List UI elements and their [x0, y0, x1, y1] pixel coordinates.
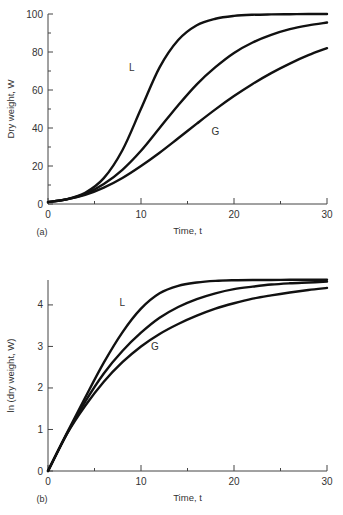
- y-tick-label: 80: [32, 47, 44, 58]
- y-axis-label: Dry weight, W: [5, 79, 16, 138]
- x-tick-label: 10: [135, 476, 147, 487]
- x-tick-label: 0: [45, 209, 51, 220]
- x-tick-label: 20: [228, 476, 240, 487]
- chart-panel-a: 0204060801000102030Time, tDry weight, W(…: [5, 9, 333, 238]
- growth-curves-figure: 0204060801000102030Time, tDry weight, W(…: [0, 0, 343, 515]
- x-tick-label: 0: [45, 476, 51, 487]
- panel-label: (b): [37, 494, 48, 504]
- series-label-g: G: [151, 341, 159, 352]
- y-tick-label: 3: [37, 341, 43, 352]
- chart-panel-b: 012340102030Time, tln (dry weight, W)(b)…: [5, 280, 333, 504]
- y-axis-label: ln (dry weight, W): [5, 339, 16, 413]
- y-tick-label: 0: [37, 466, 43, 477]
- y-tick-label: 0: [37, 199, 43, 210]
- series-line-l: [48, 14, 327, 202]
- panel-label: (a): [37, 227, 48, 237]
- y-tick-label: 20: [32, 161, 44, 172]
- x-tick-label: 10: [135, 209, 147, 220]
- x-axis-label: Time, t: [173, 492, 202, 503]
- series-line-g: [48, 288, 327, 471]
- series-line-middle: [48, 23, 327, 203]
- series-label-l: L: [120, 297, 126, 308]
- x-tick-label: 30: [321, 209, 333, 220]
- y-tick-label: 4: [37, 299, 43, 310]
- series-line-middle: [48, 282, 327, 471]
- y-tick-label: 40: [32, 123, 44, 134]
- x-tick-label: 20: [228, 209, 240, 220]
- series-line-l: [48, 280, 327, 471]
- y-tick-label: 60: [32, 85, 44, 96]
- y-tick-label: 100: [26, 9, 43, 20]
- y-tick-label: 2: [37, 382, 43, 393]
- series-label-g: G: [212, 126, 220, 137]
- y-tick-label: 1: [37, 424, 43, 435]
- series-line-g: [48, 48, 327, 202]
- x-tick-label: 30: [321, 476, 333, 487]
- series-label-l: L: [129, 62, 135, 73]
- x-axis-label: Time, t: [173, 225, 202, 236]
